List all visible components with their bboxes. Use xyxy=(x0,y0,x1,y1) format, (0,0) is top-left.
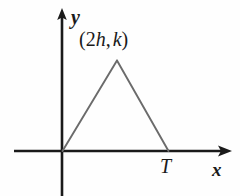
apex-label-coefficient: 2 xyxy=(86,28,96,50)
apex-label-var-k: k xyxy=(113,28,122,50)
apex-label-comma: , xyxy=(106,28,111,50)
apex-label-close-paren: ) xyxy=(122,28,129,50)
falling-edge-segment xyxy=(117,61,169,152)
apex-label-var-h: h xyxy=(96,28,106,50)
y-axis-label: y xyxy=(71,7,80,27)
rising-edge-segment xyxy=(63,61,118,152)
apex-coordinate-label: (2h,k) xyxy=(79,29,128,49)
x-intercept-label-t: T xyxy=(160,156,171,176)
coordinate-diagram: y x T (2h,k) xyxy=(0,0,240,196)
apex-label-open-paren: ( xyxy=(79,28,86,50)
x-axis-label: x xyxy=(212,160,222,179)
